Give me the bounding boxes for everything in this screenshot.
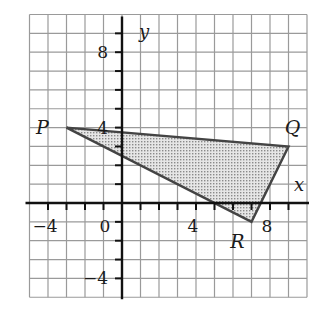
- vertex-label-q: Q: [285, 116, 301, 138]
- y-tick-label: 8: [97, 42, 108, 62]
- y-tick-label: 4: [97, 118, 108, 138]
- y-tick-label: −4: [83, 268, 108, 288]
- x-axis-label: x: [294, 174, 304, 195]
- coordinate-plane: −404884−4xyPQR: [0, 0, 326, 314]
- y-axis-label: y: [138, 21, 150, 42]
- vertex-label-p: P: [35, 116, 50, 138]
- x-tick-label: 8: [262, 216, 273, 236]
- x-tick-label: 4: [188, 216, 199, 236]
- vertex-label-r: R: [229, 230, 244, 252]
- x-tick-label-0: 0: [100, 216, 111, 236]
- x-tick-label: −4: [32, 216, 57, 236]
